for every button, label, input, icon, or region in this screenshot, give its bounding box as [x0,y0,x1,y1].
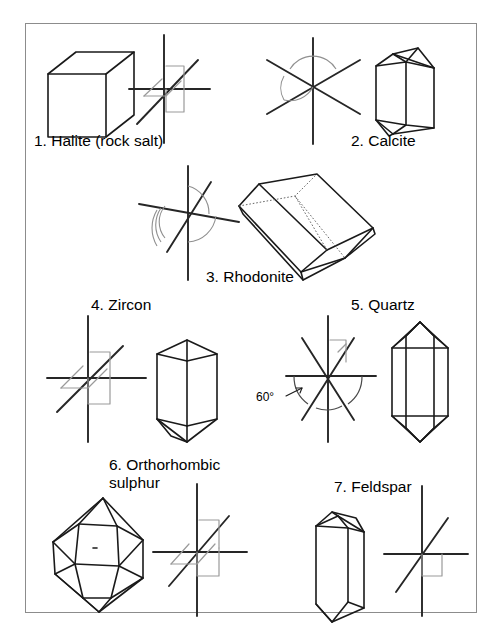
figure-feldspar: 7. Feldspar [276,476,476,626]
diagram-frame: 1. Halite (rock salt) [25,23,477,613]
rhodonite-crystal [239,174,375,280]
figure-calcite: 2. Calcite [256,24,476,154]
tetragonal-axis-system [47,316,146,442]
hexagonal-axis-system-quartz [286,316,376,442]
zircon-drawing [31,316,246,466]
angle-label-group: 60° [256,388,302,404]
angle-label-text: 60° [256,390,274,404]
sulphur-crystal [53,498,143,612]
monoclinic-axis-system [384,486,468,616]
quartz-crystal [392,322,448,442]
caption-orthorhombic-sulphur: 6. Orthorhombic sulphur [109,456,220,493]
figure-orthorhombic-sulphur: 6. Orthorhombic sulphur [31,454,256,614]
caption-calcite: 2. Calcite [351,132,416,150]
figure-rhodonite: 3. Rhodonite [131,164,431,289]
hexagonal-axis-system [267,38,360,144]
cubic-axis-system [129,35,210,143]
feldspar-drawing [276,498,476,628]
quartz-drawing: 60° [256,316,476,466]
figure-quartz: 5. Quartz 60° [256,294,476,449]
caption-rhodonite: 3. Rhodonite [206,268,294,286]
caption-feldspar: 7. Feldspar [334,478,412,496]
caption-halite: 1. Halite (rock salt) [34,132,163,150]
caption-quartz: 5. Quartz [351,296,415,314]
orthorhombic-axis-system [153,484,247,616]
zircon-crystal [157,340,217,442]
triclinic-axis-system [139,166,239,280]
feldspar-crystal [316,512,364,622]
cube-crystal [48,52,134,137]
figure-zircon: 4. Zircon [31,294,246,449]
calcite-crystal [376,48,434,136]
figure-halite: 1. Halite (rock salt) [26,24,256,154]
sulphur-drawing [31,494,256,624]
caption-zircon: 4. Zircon [91,296,151,314]
